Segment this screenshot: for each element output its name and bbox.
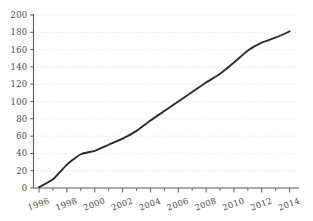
x-tick-label: 2012 [249,195,274,212]
y-tick-label: 180 [11,27,28,37]
x-tick-label: 2002 [110,195,135,212]
y-tick-label: 120 [11,79,28,89]
y-tick-label: 40 [16,148,27,158]
x-tick-label: 2006 [165,195,190,212]
y-tick-label: 80 [16,114,27,124]
x-tick-label: 1996 [26,195,51,212]
axes [34,14,300,188]
y-tick-label: 100 [11,97,28,107]
x-tick-label: 2010 [221,195,246,212]
y-tick-label: 140 [11,62,28,72]
tick-marks [30,15,289,193]
y-tick-label: 200 [11,10,28,20]
y-axis-tick-labels: 020406080100120140160180200 [11,10,28,193]
y-tick-label: 0 [22,183,28,193]
gridlines [35,15,299,188]
x-tick-label: 1998 [54,195,79,212]
x-tick-label: 2000 [82,195,107,212]
x-tick-label: 2008 [193,195,218,212]
y-tick-label: 20 [16,166,27,176]
x-tick-label: 2004 [138,195,163,212]
chart-canvas: 020406080100120140160180200 199619982000… [0,0,313,221]
y-tick-label: 60 [16,131,27,141]
y-tick-label: 160 [11,45,28,55]
x-axis-tick-labels: 1996199820002002200420062008201020122014 [26,195,301,212]
line-chart: 020406080100120140160180200 199619982000… [0,0,313,221]
data-line-path [39,31,290,187]
data-series [39,31,290,187]
x-tick-label: 2014 [277,195,302,212]
